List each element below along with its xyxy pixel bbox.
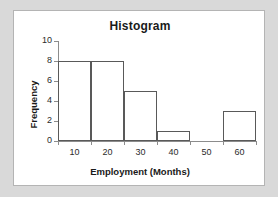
x-tick <box>223 141 224 145</box>
y-tick-label: 6 <box>24 75 52 85</box>
x-tick <box>256 141 257 145</box>
x-tick <box>124 141 125 145</box>
x-tick <box>190 141 191 145</box>
x-axis-label: Employment (Months) <box>14 166 266 177</box>
histogram-bar <box>223 111 256 141</box>
histogram-bar <box>124 91 157 141</box>
x-tick-label: 50 <box>195 147 219 157</box>
histogram-screenshot: Histogram Frequency Employment (Months) … <box>0 0 278 197</box>
y-tick <box>54 41 58 42</box>
x-tick-label: 60 <box>228 147 252 157</box>
x-tick-label: 20 <box>96 147 120 157</box>
histogram-bar <box>58 61 91 141</box>
y-tick-label: 2 <box>24 115 52 125</box>
chart-title: Histogram <box>14 19 266 33</box>
x-tick-label: 30 <box>129 147 153 157</box>
x-tick <box>58 141 59 145</box>
y-tick-label: 4 <box>24 95 52 105</box>
y-tick-label: 8 <box>24 55 52 65</box>
histogram-bar <box>91 61 124 141</box>
chart-panel: Histogram Frequency Employment (Months) … <box>13 10 265 186</box>
y-tick-label: 0 <box>24 135 52 145</box>
x-tick-label: 10 <box>63 147 87 157</box>
plot-area: 0246810 102030405060 <box>58 41 256 141</box>
histogram-bar <box>157 131 190 141</box>
x-tick <box>91 141 92 145</box>
x-tick-label: 40 <box>162 147 186 157</box>
x-tick <box>157 141 158 145</box>
y-tick-label: 10 <box>24 35 52 45</box>
